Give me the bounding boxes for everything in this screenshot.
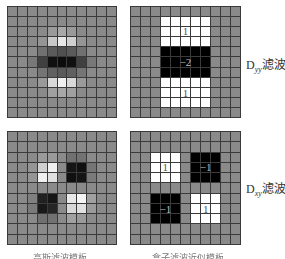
grid-cell — [151, 163, 160, 172]
grid-cell — [77, 173, 86, 182]
grid-cell — [191, 224, 200, 233]
grid-cell — [38, 153, 47, 162]
grid-cell — [221, 173, 230, 182]
grid-cell — [221, 68, 230, 77]
region-value-label: 1 — [163, 161, 169, 173]
grid-cell — [38, 57, 47, 66]
grid-cell — [38, 27, 47, 36]
grid-cell — [38, 163, 47, 172]
grid-cell — [107, 163, 116, 172]
grid-cell — [221, 88, 230, 97]
grid-cell — [67, 214, 76, 223]
grid-cell — [231, 57, 240, 66]
grid-cell — [221, 57, 230, 66]
grid-cell — [131, 78, 140, 87]
grid-cell — [58, 108, 67, 117]
grid-cell — [231, 142, 240, 151]
grid-cell — [77, 27, 86, 36]
grid-cell — [131, 57, 140, 66]
grid-cell — [87, 163, 96, 172]
grid-cell — [131, 235, 140, 244]
grid-cell — [28, 204, 37, 213]
grid-cell — [38, 7, 47, 16]
grid-cell — [67, 142, 76, 151]
grid-cell — [28, 108, 37, 117]
grid-cell — [18, 7, 27, 16]
grid-cell — [38, 224, 47, 233]
grid-cell — [58, 98, 67, 107]
grid-cell — [151, 17, 160, 26]
grid-cell — [87, 88, 96, 97]
grid-cell — [141, 224, 150, 233]
grid-cell — [87, 132, 96, 141]
grid-cell — [211, 27, 220, 36]
grid-cell — [8, 194, 17, 203]
grid-cell — [28, 235, 37, 244]
grid-cell — [48, 163, 57, 172]
grid-cell — [38, 47, 47, 56]
grid-cell — [48, 173, 57, 182]
grid-cell — [58, 142, 67, 151]
grid-cell — [8, 153, 17, 162]
grid-cell — [18, 163, 27, 172]
grid-cell — [131, 173, 140, 182]
grid-cell — [161, 173, 170, 182]
grid-cell — [141, 7, 150, 16]
grid-cell — [171, 153, 180, 162]
grid-cell — [28, 132, 37, 141]
grid-cell — [28, 194, 37, 203]
grid-cell — [58, 153, 67, 162]
grid-cell — [107, 57, 116, 66]
grid-cell — [28, 153, 37, 162]
grid-cell — [87, 108, 96, 117]
grid-cell — [221, 37, 230, 46]
grid-cell — [97, 194, 106, 203]
grid-cell — [87, 194, 96, 203]
grid-cell — [161, 224, 170, 233]
grid-cell — [161, 142, 170, 151]
grid-cell — [18, 17, 27, 26]
grid-cell — [211, 194, 220, 203]
grid-cell — [161, 183, 170, 192]
grid-cell — [58, 17, 67, 26]
grid-cell — [97, 88, 106, 97]
grid-cell — [67, 153, 76, 162]
grid-cell — [161, 132, 170, 141]
grid-cell — [201, 173, 210, 182]
grid-cell — [161, 57, 170, 66]
grid-cell — [67, 98, 76, 107]
box-dxy-grid — [130, 131, 241, 245]
grid-cell — [18, 108, 27, 117]
grid-cell — [171, 37, 180, 46]
grid-cell — [67, 68, 76, 77]
grid-cell — [8, 78, 17, 87]
grid-cell — [211, 57, 220, 66]
grid-cell — [191, 214, 200, 223]
grid-cell — [221, 183, 230, 192]
grid-cell — [77, 153, 86, 162]
grid-cell — [171, 7, 180, 16]
grid-cell — [161, 68, 170, 77]
grid-cell — [97, 98, 106, 107]
grid-cell — [87, 37, 96, 46]
grid-cell — [191, 17, 200, 26]
grid-cell — [58, 235, 67, 244]
grid-cell — [77, 204, 86, 213]
grid-cell — [87, 173, 96, 182]
grid-cell — [38, 183, 47, 192]
grid-cell — [191, 142, 200, 151]
grid-cell — [131, 153, 140, 162]
grid-cell — [231, 98, 240, 107]
grid-cell — [201, 224, 210, 233]
grid-cell — [38, 108, 47, 117]
grid-cell — [18, 47, 27, 56]
grid-cell — [77, 235, 86, 244]
grid-cell — [131, 214, 140, 223]
grid-cell — [131, 142, 140, 151]
region-value-label: −1 — [159, 203, 171, 215]
grid-cell — [221, 98, 230, 107]
grid-cell — [191, 235, 200, 244]
grid-cell — [8, 88, 17, 97]
grid-cell — [58, 7, 67, 16]
grid-cell — [48, 88, 57, 97]
